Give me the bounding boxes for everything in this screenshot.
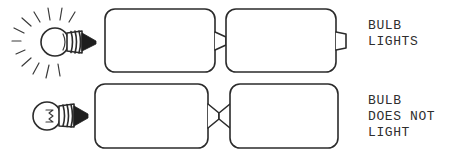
caption-bulb-lights: BULB LIGHTS [368, 18, 418, 50]
battery-terminal-bottom-right-icon [219, 104, 230, 128]
diagram-canvas: BULB LIGHTS BULB DOES NOT LIGHT [0, 0, 475, 155]
caption-bulb-does-not-light: BULB DOES NOT LIGHT [368, 93, 435, 141]
battery-top-left [105, 9, 215, 72]
row-top-graphics [12, 8, 346, 78]
lit-bulb-contact-tip-icon [82, 33, 96, 51]
unlit-bulb-glass-icon [33, 102, 61, 130]
row-bottom-graphics [33, 84, 338, 148]
battery-terminal-top-right-icon [336, 32, 346, 50]
battery-bottom-left [95, 84, 208, 148]
battery-top-right [226, 9, 336, 72]
battery-terminal-top-middle-icon [215, 32, 226, 50]
battery-terminal-bottom-left-icon [208, 104, 219, 128]
unlit-bulb-contact-tip-icon [74, 106, 88, 126]
battery-bottom-right [230, 84, 338, 148]
